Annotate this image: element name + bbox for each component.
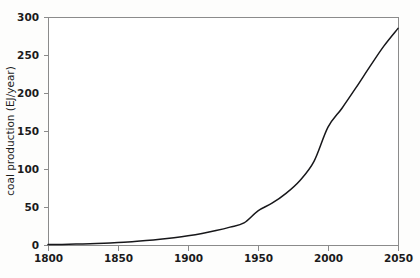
x-tick-label: 2050 xyxy=(384,252,413,264)
x-tick-label: 2000 xyxy=(314,252,343,264)
chart-svg: 180018501900195020002050 050100150200250… xyxy=(0,0,420,278)
plot-area-background xyxy=(48,17,398,245)
y-tick-label: 150 xyxy=(17,125,39,137)
x-tick-label: 1850 xyxy=(104,252,133,264)
y-tick-label: 200 xyxy=(17,87,39,99)
y-tick-label: 250 xyxy=(17,49,39,61)
coal-production-chart: 180018501900195020002050 050100150200250… xyxy=(0,0,420,278)
x-tick-label: 1900 xyxy=(174,252,203,264)
x-tick-label: 1950 xyxy=(244,252,273,264)
y-tick-label: 100 xyxy=(17,163,39,175)
y-axis-title: coal production (EJ/year) xyxy=(4,66,16,196)
y-tick-label: 50 xyxy=(24,201,39,213)
x-tick-label: 1800 xyxy=(34,252,63,264)
y-tick-label: 300 xyxy=(17,11,39,23)
y-tick-label: 0 xyxy=(32,239,39,251)
